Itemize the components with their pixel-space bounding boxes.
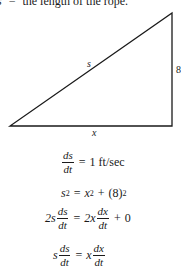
equation-pythagoras: s2 = x2 + (8)2	[61, 186, 127, 201]
triangle-shape	[10, 13, 172, 126]
constant-term: 0	[125, 211, 131, 226]
lhs-coefficient: 2s	[45, 211, 56, 226]
fraction-dx-dt: dx dt	[93, 243, 105, 268]
equation-simplified: s ds dt = x dx dt	[53, 243, 106, 268]
fraction-denominator: dt	[64, 163, 73, 175]
plus-sign: +	[98, 186, 105, 201]
rate-value: 1 ft/sec	[90, 155, 125, 170]
fraction-denominator: dt	[60, 256, 69, 268]
fraction-numerator: ds	[59, 243, 71, 256]
fraction-denominator: dt	[94, 256, 103, 268]
equation-rate: ds dt = 1 ft/sec	[61, 150, 125, 175]
equation-differentiated: 2s ds dt = 2x dx dt + 0	[45, 206, 131, 231]
right-triangle-diagram	[0, 0, 181, 140]
hypotenuse-label: s	[87, 59, 91, 69]
fraction-dx-dt: dx dt	[97, 206, 109, 231]
fraction-ds-dt: ds dt	[62, 150, 74, 175]
fraction-numerator: dx	[93, 243, 105, 256]
rhs-coefficient: 2x	[84, 211, 95, 226]
equals-sign: =	[74, 186, 81, 201]
equals-sign: =	[75, 248, 82, 263]
equals-sign: =	[73, 211, 80, 226]
fraction-numerator: ds	[57, 206, 69, 219]
fraction-numerator: ds	[62, 150, 74, 163]
equals-sign: =	[79, 155, 86, 170]
vertical-side-label: 8	[176, 65, 181, 75]
fraction-numerator: dx	[97, 206, 109, 219]
fraction-ds-dt: ds dt	[57, 206, 69, 231]
lhs-base: s	[61, 186, 66, 201]
fraction-denominator: dt	[98, 219, 107, 231]
plus-sign: +	[114, 211, 121, 226]
lhs-coefficient: s	[53, 248, 58, 263]
rhs-coefficient: x	[86, 248, 91, 263]
rhs-term1-base: x	[84, 186, 89, 201]
fraction-ds-dt: ds dt	[59, 243, 71, 268]
fraction-denominator: dt	[58, 219, 67, 231]
base-label: x	[92, 128, 96, 138]
rhs-term2-base: (8)	[109, 186, 123, 201]
